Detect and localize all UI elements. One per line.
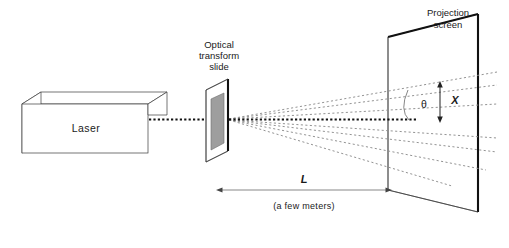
optical-transform-slide	[206, 79, 228, 162]
slide-caption-line2: transform	[199, 50, 239, 61]
slide-caption: Optical transform slide	[199, 39, 239, 72]
laser-top-face	[22, 92, 167, 104]
projection-screen	[388, 14, 478, 212]
optical-transform-figure: Laser θ X	[0, 0, 509, 248]
l-dimension-label: L	[301, 173, 308, 185]
l-arrow-head-left	[216, 187, 223, 192]
laser-box: Laser	[22, 92, 167, 153]
projection-screen-face	[388, 14, 478, 212]
theta-label: θ	[421, 98, 427, 110]
slide-caption-line3: slide	[209, 61, 229, 72]
slide-caption-line1: Optical	[204, 39, 234, 50]
diagram-canvas: Laser θ X	[0, 0, 509, 248]
slide-aperture	[211, 93, 224, 150]
laser-label: Laser	[72, 122, 100, 134]
x-dimension-label: X	[450, 94, 459, 106]
l-dimension-caption: (a few meters)	[273, 201, 335, 211]
l-dimension: L (a few meters)	[216, 173, 392, 211]
screen-caption-line1: Projection	[427, 7, 469, 18]
screen-caption-line2: screen	[434, 19, 463, 30]
